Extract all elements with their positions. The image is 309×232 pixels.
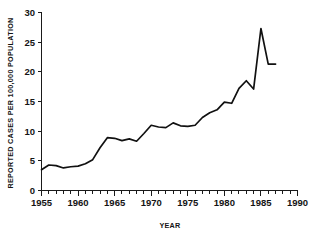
data-series-group <box>42 29 276 170</box>
x-tick-label: 1990 <box>287 197 308 208</box>
x-tick-label: 1975 <box>177 197 199 208</box>
y-tick-label: 15 <box>24 96 35 107</box>
data-line-series-0 <box>42 29 276 170</box>
x-tick-label: 1955 <box>31 197 53 208</box>
y-axis: 051015202530 <box>24 7 41 196</box>
y-tick-label: 25 <box>24 37 35 48</box>
y-tick-label: 30 <box>24 7 35 18</box>
y-tick-label: 0 <box>30 185 35 196</box>
y-tick-label: 20 <box>24 66 35 77</box>
chart-figure: 051015202530 195519601965197019751980198… <box>0 0 309 232</box>
line-chart: 051015202530 195519601965197019751980198… <box>0 0 309 232</box>
x-tick-label: 1970 <box>141 197 162 208</box>
x-tick-label: 1965 <box>104 197 126 208</box>
x-axis: 19551960196519701975198019851990 <box>31 191 308 208</box>
y-tick-label: 10 <box>24 126 35 137</box>
x-axis-title: YEAR <box>159 221 181 230</box>
y-tick-label: 5 <box>30 155 36 166</box>
x-tick-label: 1985 <box>250 197 272 208</box>
x-tick-label: 1980 <box>214 197 235 208</box>
y-axis-title: REPORTED CASES PER 100,000 POPULATION <box>6 17 15 188</box>
x-tick-label: 1960 <box>68 197 89 208</box>
